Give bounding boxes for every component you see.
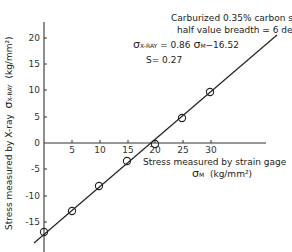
- y-tick-label: -10: [20, 191, 40, 201]
- x-tick-label: 20: [145, 145, 165, 155]
- breadth-annotation: half value breadth ≃ 6 deg: [177, 25, 292, 35]
- y-tick-label: 10: [20, 85, 40, 95]
- y-tick-label: 0: [20, 138, 40, 148]
- y-tick-label: 5: [20, 112, 40, 122]
- material-annotation: Carburized 0.35% carbon steel: [171, 13, 292, 23]
- x-axis-symbol: σM (kg/mm²): [192, 169, 252, 180]
- x-tick-label: 10: [90, 145, 110, 155]
- regression-line: [34, 35, 277, 243]
- y-tick-label: 15: [20, 59, 40, 69]
- chart-plot-area: [0, 0, 292, 252]
- y-tick-label: 20: [20, 33, 40, 43]
- data-point: [95, 182, 102, 189]
- std-deviation: S= 0.27: [146, 55, 182, 65]
- y-tick-label: -5: [20, 164, 40, 174]
- y-tick-label: -15: [20, 217, 40, 227]
- x-tick-label: 5: [62, 145, 82, 155]
- x-tick-label: 30: [201, 145, 221, 155]
- x-axis-label: Stress measured by strain gage: [143, 157, 286, 167]
- y-axis-label: Stress measured by X-ray σX-RAY (kg/mm²): [2, 36, 15, 230]
- regression-equation: σX-RAY = 0.86 σM−16.52: [133, 40, 239, 51]
- x-tick-label: 25: [173, 145, 193, 155]
- x-tick-label: 15: [118, 145, 138, 155]
